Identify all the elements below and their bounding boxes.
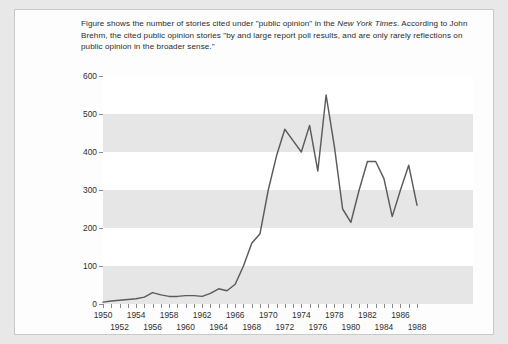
caption-publication-name: New York Times bbox=[337, 19, 397, 28]
x-axis-tick-mark bbox=[334, 304, 335, 308]
x-axis-tick-mark bbox=[243, 304, 244, 308]
x-axis-tick-mark bbox=[120, 304, 121, 308]
x-axis-tick-mark bbox=[277, 304, 278, 308]
x-axis-tick-label: 1960 bbox=[169, 322, 203, 332]
y-axis-tick-label: 500 bbox=[67, 109, 97, 119]
x-axis-tick-mark bbox=[252, 304, 253, 308]
x-axis-tick-mark bbox=[351, 304, 352, 308]
y-axis-tick-mark bbox=[99, 76, 103, 77]
y-axis-tick-label: 400 bbox=[67, 147, 97, 157]
caption-line-1-part-b: . bbox=[397, 19, 399, 28]
y-axis-tick-label: 300 bbox=[67, 185, 97, 195]
x-axis-tick-mark bbox=[169, 304, 170, 308]
x-axis-tick-mark bbox=[301, 304, 302, 308]
figure-panel: Figure shows the number of stories cited… bbox=[14, 9, 494, 335]
x-axis-tick-mark bbox=[227, 304, 228, 308]
y-axis-tick-label: 200 bbox=[67, 223, 97, 233]
x-axis-tick-label: 1954 bbox=[119, 310, 153, 320]
x-axis-tick-mark bbox=[144, 304, 145, 308]
x-axis-tick-mark bbox=[136, 304, 137, 308]
x-axis-tick-label: 1978 bbox=[317, 310, 351, 320]
x-axis-tick-mark bbox=[161, 304, 162, 308]
x-axis-tick-mark bbox=[400, 304, 401, 308]
x-axis-tick-label: 1956 bbox=[136, 322, 170, 332]
figure-caption: Figure shows the number of stories cited… bbox=[81, 18, 483, 53]
x-axis-tick-mark bbox=[153, 304, 154, 308]
x-axis-tick-label: 1972 bbox=[268, 322, 302, 332]
x-axis-tick-mark bbox=[285, 304, 286, 308]
x-axis-tick-mark bbox=[384, 304, 385, 308]
x-axis-tick-mark bbox=[103, 304, 104, 308]
y-axis-tick-label: 600 bbox=[67, 71, 97, 81]
x-axis-tick-label: 1980 bbox=[334, 322, 368, 332]
caption-line-1-part-a: Figure shows the number of stories cited… bbox=[81, 19, 337, 28]
x-axis-tick-label: 1982 bbox=[350, 310, 384, 320]
x-axis-tick-mark bbox=[111, 304, 112, 308]
x-axis-tick-mark bbox=[409, 304, 410, 308]
x-axis-tick-mark bbox=[202, 304, 203, 308]
x-axis-tick-label: 1970 bbox=[251, 310, 285, 320]
y-axis-tick-mark bbox=[99, 190, 103, 191]
y-axis-tick-mark bbox=[99, 228, 103, 229]
x-axis-tick-mark bbox=[343, 304, 344, 308]
x-axis-tick-label: 1976 bbox=[301, 322, 335, 332]
x-axis-tick-mark bbox=[194, 304, 195, 308]
y-axis-tick-mark bbox=[99, 266, 103, 267]
x-axis-tick-label: 1968 bbox=[235, 322, 269, 332]
x-axis-tick-label: 1966 bbox=[218, 310, 252, 320]
y-axis-tick-label: 0 bbox=[67, 299, 97, 309]
x-axis-tick-label: 1988 bbox=[400, 322, 434, 332]
y-axis-tick-mark bbox=[99, 114, 103, 115]
x-axis-tick-label: 1950 bbox=[86, 310, 120, 320]
x-axis-tick-mark bbox=[186, 304, 187, 308]
series-polyline bbox=[103, 95, 417, 302]
x-axis-tick-mark bbox=[260, 304, 261, 308]
x-axis-tick-label: 1974 bbox=[284, 310, 318, 320]
x-axis-tick-label: 1952 bbox=[103, 322, 137, 332]
x-axis-tick-mark bbox=[310, 304, 311, 308]
x-axis-tick-mark bbox=[235, 304, 236, 308]
y-axis-tick-mark bbox=[99, 152, 103, 153]
x-axis-tick-mark bbox=[177, 304, 178, 308]
x-axis-tick-mark bbox=[318, 304, 319, 308]
x-axis-tick-label: 1958 bbox=[152, 310, 186, 320]
x-axis-tick-mark bbox=[219, 304, 220, 308]
x-axis-tick-mark bbox=[417, 304, 418, 308]
x-axis-tick-label: 1962 bbox=[185, 310, 219, 320]
chart-line-series bbox=[103, 76, 417, 304]
x-axis-tick-mark bbox=[392, 304, 393, 308]
x-axis-tick-mark bbox=[210, 304, 211, 308]
x-axis-tick-mark bbox=[293, 304, 294, 308]
y-axis-tick-label: 100 bbox=[67, 261, 97, 271]
x-axis-tick-mark bbox=[359, 304, 360, 308]
x-axis-tick-label: 1984 bbox=[367, 322, 401, 332]
x-axis-tick-mark bbox=[128, 304, 129, 308]
x-axis-tick-mark bbox=[376, 304, 377, 308]
x-axis-tick-mark bbox=[367, 304, 368, 308]
x-axis-tick-label: 1986 bbox=[383, 310, 417, 320]
x-axis-tick-mark bbox=[268, 304, 269, 308]
x-axis-tick-label: 1964 bbox=[202, 322, 236, 332]
x-axis-tick-mark bbox=[326, 304, 327, 308]
